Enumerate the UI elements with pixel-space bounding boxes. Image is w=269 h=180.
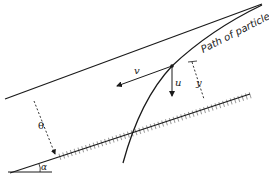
path-label: Path of particle	[199, 10, 269, 54]
v-label: v	[134, 65, 140, 76]
u-label: u	[175, 77, 181, 88]
y-label: y	[195, 77, 202, 88]
particle-path-diagram: Path of particle v u y θ α	[0, 0, 269, 180]
theta-label: θ	[38, 120, 44, 131]
y-tick	[188, 61, 197, 62]
upper-line	[5, 4, 262, 99]
alpha-label: α	[41, 162, 47, 172]
